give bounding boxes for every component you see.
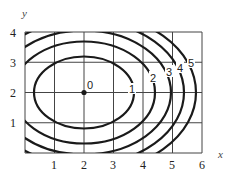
contour-label-2: 2	[150, 72, 156, 84]
contour-label-3: 3	[166, 66, 172, 78]
x-tick-2: 2	[81, 158, 87, 172]
center-point	[81, 90, 86, 95]
contour-diagram: 0 1 2 3 4 5 y 4 3 2 1 1 2 3 4 5 6 x	[0, 0, 231, 180]
x-tick-1: 1	[51, 158, 57, 172]
y-tick-4: 4	[10, 26, 16, 40]
contour-label-5: 5	[188, 57, 194, 69]
y-tick-1: 1	[10, 116, 16, 130]
contour-label-1: 1	[129, 83, 135, 95]
y-tick-2: 2	[10, 86, 16, 100]
y-tick-3: 3	[10, 56, 16, 70]
contour-label-4: 4	[177, 62, 183, 74]
x-tick-6: 6	[199, 158, 205, 172]
center-label: 0	[87, 79, 93, 91]
x-axis-label: x	[217, 148, 223, 160]
grid	[25, 32, 202, 153]
y-axis-label: y	[21, 7, 27, 19]
x-tick-3: 3	[110, 158, 116, 172]
x-tick-4: 4	[140, 158, 146, 172]
x-tick-5: 5	[169, 158, 175, 172]
